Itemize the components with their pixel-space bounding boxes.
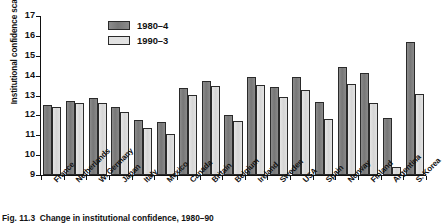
- bar-group: [202, 16, 220, 175]
- bar-1980-4: [157, 122, 166, 175]
- y-tick-label: 13: [25, 90, 35, 101]
- y-tick-mark: [36, 16, 40, 17]
- figure-caption: Fig. 11.3 Change in institutional confid…: [2, 213, 429, 223]
- bar-1990-3: [324, 119, 333, 175]
- legend-label-1990-3: 1990–3: [137, 35, 168, 46]
- bar-group: [292, 16, 310, 175]
- y-tick-label: 12: [25, 109, 35, 120]
- bar-group: [383, 16, 401, 175]
- legend-label-1980-4: 1980–4: [137, 20, 168, 31]
- bar-1990-3: [52, 107, 61, 175]
- legend-swatch-1980-4: [108, 21, 130, 30]
- plot-area: 91011121314151617: [40, 16, 426, 176]
- bar-1980-4: [338, 67, 347, 175]
- y-tick-label: 10: [25, 149, 35, 160]
- caption-text: Change in institutional confidence, 1980…: [40, 213, 214, 223]
- y-tick-label: 17: [25, 10, 35, 21]
- y-tick-mark: [36, 175, 40, 176]
- y-axis-title: Institutional confidence scale: [10, 0, 19, 129]
- legend-item-1980-4: 1980–4: [108, 19, 168, 32]
- bar-group: [270, 16, 288, 175]
- bar-group: [224, 16, 242, 175]
- y-tick-mark: [36, 36, 40, 37]
- bar-1990-3: [188, 95, 197, 175]
- y-tick-mark: [36, 155, 40, 156]
- y-tick-mark: [36, 135, 40, 136]
- bar-1990-3: [347, 84, 356, 175]
- y-tick-label: 9: [30, 169, 35, 180]
- y-tick-label: 16: [25, 30, 35, 41]
- bar-group: [338, 16, 356, 175]
- legend-item-1990-3: 1990–3: [108, 34, 168, 47]
- bar-1980-4: [315, 102, 324, 175]
- bar-group: [406, 16, 424, 175]
- bar-group: [179, 16, 197, 175]
- y-tick-label: 15: [25, 50, 35, 61]
- y-tick-mark: [36, 96, 40, 97]
- bar-group: [360, 16, 378, 175]
- y-tick-label: 14: [25, 70, 35, 81]
- bar-1990-3: [279, 97, 288, 176]
- bar-1990-3: [233, 121, 242, 175]
- bar-group: [315, 16, 333, 175]
- y-tick-mark: [36, 56, 40, 57]
- bar-series-container: [41, 16, 426, 175]
- bar-group: [247, 16, 265, 175]
- bar-1980-4: [43, 105, 52, 175]
- chart-legend: 1980–4 1990–3: [108, 19, 168, 49]
- y-tick-mark: [36, 115, 40, 116]
- y-tick-label: 11: [25, 129, 35, 140]
- bar-1990-3: [75, 103, 84, 175]
- bar-group: [43, 16, 61, 175]
- bar-group: [66, 16, 84, 175]
- caption-number: Fig. 11.3: [2, 213, 35, 223]
- legend-swatch-1990-3: [108, 36, 130, 45]
- x-axis-category-labels: FranceNetherlandsW. GermanyJapanItalyMex…: [40, 178, 426, 218]
- y-tick-mark: [36, 76, 40, 77]
